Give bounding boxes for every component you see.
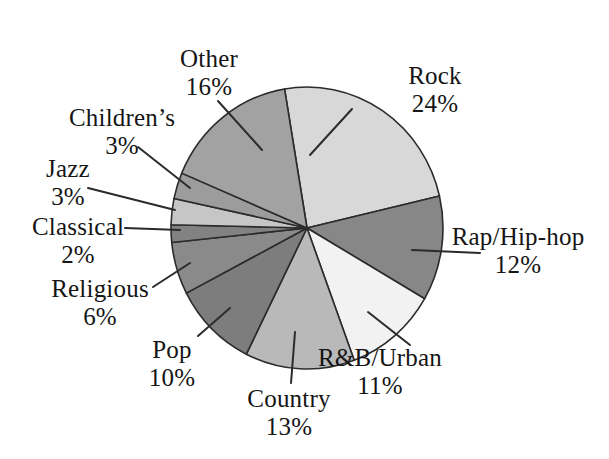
music-genre-pie-chart: Rock24%Rap/Hip-hop12%R&B/Urban11%Country… — [0, 0, 609, 459]
slice-label-name: Religious — [51, 275, 149, 303]
slice-label-jazz: Jazz3% — [46, 155, 90, 211]
slice-label-percent: 2% — [32, 241, 124, 269]
slice-label-name: Other — [180, 45, 238, 73]
slice-label-percent: 11% — [318, 372, 442, 400]
slice-label-name: Children’s — [69, 104, 175, 132]
slice-label-percent: 12% — [452, 251, 585, 279]
slice-label-other: Other16% — [180, 45, 238, 101]
slice-label-pop: Pop10% — [149, 336, 195, 392]
slice-label-name: Classical — [32, 213, 124, 241]
slice-label-percent: 13% — [247, 413, 330, 441]
slice-label-rock: Rock24% — [408, 62, 462, 118]
slice-label-classical: Classical2% — [32, 213, 124, 269]
slice-label-percent: 3% — [46, 183, 90, 211]
slice-label-percent: 16% — [180, 73, 238, 101]
slice-label-percent: 3% — [69, 132, 175, 160]
slice-label-r-b-urban: R&B/Urban11% — [318, 344, 442, 400]
leader-line-jazz — [88, 188, 175, 210]
slice-label-name: Pop — [149, 336, 195, 364]
slice-label-name: Rap/Hip-hop — [452, 223, 585, 251]
slice-label-rap-hip-hop: Rap/Hip-hop12% — [452, 223, 585, 279]
slice-label-name: Country — [247, 385, 330, 413]
slice-label-country: Country13% — [247, 385, 330, 441]
slice-label-name: Rock — [408, 62, 462, 90]
slice-label-children-s: Children’s3% — [69, 104, 175, 160]
slice-label-percent: 10% — [149, 364, 195, 392]
slice-label-percent: 24% — [408, 90, 462, 118]
slice-label-name: R&B/Urban — [318, 344, 442, 372]
slice-label-percent: 6% — [51, 303, 149, 331]
slice-label-religious: Religious6% — [51, 275, 149, 331]
